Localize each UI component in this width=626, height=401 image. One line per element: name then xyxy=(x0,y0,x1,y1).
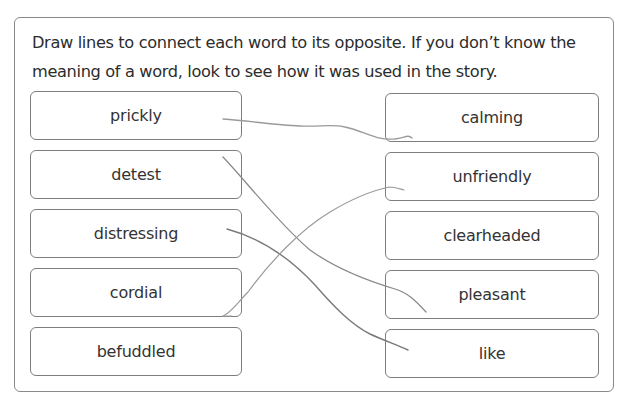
left-word-befuddled[interactable]: befuddled xyxy=(30,327,242,376)
left-word-prickly[interactable]: prickly xyxy=(30,91,242,140)
right-word-clearheaded[interactable]: clearheaded xyxy=(385,211,599,260)
right-word-unfriendly[interactable]: unfriendly xyxy=(385,152,599,201)
right-word-pleasant[interactable]: pleasant xyxy=(385,270,599,319)
right-word-like[interactable]: like xyxy=(385,329,599,378)
right-word-calming[interactable]: calming xyxy=(385,93,599,142)
left-word-detest[interactable]: detest xyxy=(30,150,242,199)
instructions-text: Draw lines to connect each word to its o… xyxy=(32,28,602,86)
left-word-distressing[interactable]: distressing xyxy=(30,209,242,258)
left-word-cordial[interactable]: cordial xyxy=(30,268,242,317)
